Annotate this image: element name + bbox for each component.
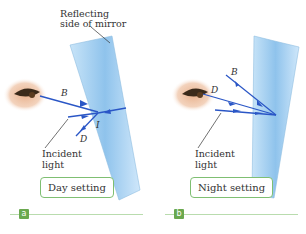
panel-badge-b: b <box>174 209 184 219</box>
mirror-wedge <box>252 36 299 198</box>
incident-label-line2: light <box>42 159 64 170</box>
night-setting-callout: Night setting <box>190 177 273 198</box>
mirror-wedge <box>70 36 140 200</box>
incident-label-line1: Incident <box>195 148 235 159</box>
ray-label-b: B <box>61 88 68 99</box>
ray-label-i: I <box>96 120 100 131</box>
divider-line <box>10 214 143 215</box>
incident-label-line2: light <box>195 159 217 170</box>
panel-night-setting: B D Incident light Night setting b <box>153 0 306 234</box>
incident-label-line1: Incident <box>42 148 82 159</box>
day-diagram-graphic <box>0 0 153 234</box>
mirror-label-line2: side of mirror <box>60 18 126 29</box>
panel-day-setting: Reflecting side of mirror B D I Incident… <box>0 0 153 234</box>
night-diagram-graphic <box>153 0 306 234</box>
panel-badge-a: a <box>19 209 29 219</box>
ray-label-d: D <box>211 85 218 96</box>
ray-label-b: B <box>231 67 238 78</box>
day-setting-callout: Day setting <box>40 177 114 198</box>
ray-label-d: D <box>80 134 87 145</box>
divider-line <box>165 214 298 215</box>
